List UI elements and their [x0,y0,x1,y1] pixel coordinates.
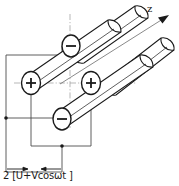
electrode-bottom-negative [53,108,71,130]
electrode-top-negative [62,35,80,57]
z-axis-label: z [147,3,152,14]
rod-bottom-front-inner-seam [62,64,146,122]
junction-dot-left [4,116,8,120]
voltage-caption: 2 [U+Vcosωt ] [3,170,73,181]
junction-dot-bottom-bus [60,144,64,148]
arrow-up-right-icon [158,15,169,24]
electrode-left-positive [22,72,41,95]
quadrupole-electrode-diagram [0,0,179,186]
electrode-right-positive [82,72,101,95]
